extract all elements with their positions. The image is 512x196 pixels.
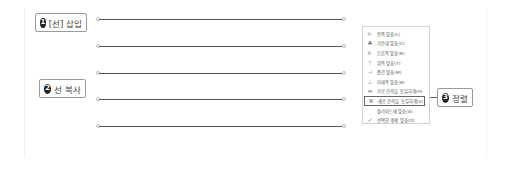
menu-item-align-right[interactable]: ⊪ 오른쪽 맞춤(R) bbox=[363, 48, 429, 58]
line-end-handle[interactable] bbox=[342, 124, 346, 128]
distribute-vertical-icon: ≣ bbox=[367, 98, 375, 104]
callout-align: 3 정렬 bbox=[437, 88, 473, 107]
align-left-icon: ⊫ bbox=[366, 31, 374, 37]
line-shape-1[interactable] bbox=[96, 17, 346, 23]
callout-label: 선 복사 bbox=[54, 83, 81, 95]
menu-item-label: 왼쪽 맞춤(L) bbox=[377, 31, 400, 37]
callout-label: 정렬 bbox=[452, 92, 468, 104]
menu-item-align-middle[interactable]: ⊣ 중간 맞춤(M) bbox=[363, 67, 429, 77]
menu-item-label: 오른쪽 맞춤(R) bbox=[377, 50, 405, 56]
menu-item-distribute-vertical[interactable]: ≣ 세로 간격을 동일하게(V) bbox=[364, 96, 425, 106]
slide-edge-right bbox=[486, 8, 487, 158]
callout-label: [선] 삽입 bbox=[49, 17, 82, 29]
step-number-badge: 3 bbox=[442, 93, 449, 103]
menu-item-label: 위쪽 맞춤(T) bbox=[377, 60, 400, 66]
menu-item-label: 슬라이드에 맞춤(A) bbox=[377, 108, 413, 114]
line-stroke bbox=[99, 46, 343, 47]
align-right-icon: ⊪ bbox=[366, 50, 374, 56]
menu-item-align-top[interactable]: ⊤ 위쪽 맞춤(T) bbox=[363, 58, 429, 68]
line-stroke bbox=[99, 126, 343, 127]
line-shape-4[interactable] bbox=[96, 97, 346, 103]
step-number-badge: 2 bbox=[44, 84, 51, 94]
align-bottom-icon: ⊥ bbox=[366, 79, 374, 85]
menu-item-align-to-slide[interactable]: 슬라이드에 맞춤(A) bbox=[363, 106, 429, 116]
align-menu: ⊫ 왼쪽 맞춤(L) ♣ 가운데 맞춤(C) ⊪ 오른쪽 맞춤(R) ⊤ 위쪽 … bbox=[362, 26, 430, 124]
menu-item-align-bottom[interactable]: ⊥ 아래쪽 맞춤(B) bbox=[363, 77, 429, 87]
line-shape-2[interactable] bbox=[96, 44, 346, 50]
menu-item-label: 세로 간격을 동일하게(V) bbox=[378, 98, 423, 104]
menu-item-label: 선택한 개체 맞춤(O) bbox=[377, 117, 414, 123]
line-stroke bbox=[99, 73, 343, 74]
line-stroke bbox=[99, 19, 343, 20]
menu-item-align-left[interactable]: ⊫ 왼쪽 맞춤(L) bbox=[363, 29, 429, 39]
step-number-badge: 1 bbox=[40, 18, 46, 28]
menu-item-label: 아래쪽 맞춤(B) bbox=[377, 79, 405, 85]
line-end-handle[interactable] bbox=[342, 17, 346, 21]
distribute-horizontal-icon: ⇹ bbox=[366, 88, 374, 94]
line-end-handle[interactable] bbox=[342, 71, 346, 75]
menu-item-align-selected-objects[interactable]: ✓ 선택한 개체 맞춤(O) bbox=[363, 115, 429, 125]
line-shape-5[interactable] bbox=[96, 124, 346, 130]
menu-item-label: 가로 간격을 동일하게(H) bbox=[377, 88, 422, 94]
align-middle-icon: ⊣ bbox=[366, 69, 374, 75]
align-top-icon: ⊤ bbox=[366, 60, 374, 66]
menu-item-align-center[interactable]: ♣ 가운데 맞춤(C) bbox=[363, 39, 429, 49]
callout-copy-line: 2 선 복사 bbox=[39, 79, 86, 98]
slide-edge-left bbox=[24, 8, 25, 158]
check-icon: ✓ bbox=[366, 117, 374, 123]
line-end-handle[interactable] bbox=[342, 44, 346, 48]
menu-item-label: 가운데 맞춤(C) bbox=[377, 40, 405, 46]
callout-insert-line: 1 [선] 삽입 bbox=[35, 13, 87, 32]
line-end-handle[interactable] bbox=[342, 97, 346, 101]
line-shape-3[interactable] bbox=[96, 71, 346, 77]
align-center-icon: ♣ bbox=[366, 40, 374, 46]
line-stroke bbox=[99, 99, 343, 100]
menu-item-label: 중간 맞춤(M) bbox=[377, 69, 401, 75]
menu-item-distribute-horizontal[interactable]: ⇹ 가로 간격을 동일하게(H) bbox=[363, 87, 429, 97]
